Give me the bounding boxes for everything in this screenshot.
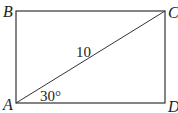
angle-label: 30° [40, 88, 61, 104]
vertex-label-d: D [167, 98, 178, 113]
vertex-label-a: A [2, 96, 13, 113]
vertex-label-c: C [168, 4, 178, 21]
diagonal-length-label: 10 [76, 44, 91, 60]
rectangle-diagram: B C A D 10 30° [0, 0, 178, 113]
vertex-label-b: B [3, 3, 13, 20]
